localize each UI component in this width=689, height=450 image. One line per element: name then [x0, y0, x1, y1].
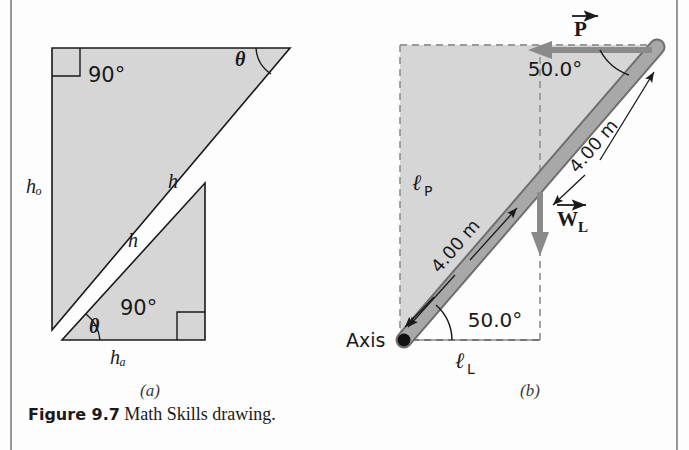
lower-right-angle-label: 90° [120, 296, 157, 320]
figure-graphic: 90° θ hₒ h h 90° θ hₐ (a) [0, 0, 689, 450]
bottom-angle-label: 50.0° [468, 308, 523, 332]
axis-label: Axis [346, 329, 385, 351]
panel-a-label: (a) [140, 381, 160, 400]
upper-right-angle-label: 90° [88, 63, 125, 87]
lever-arm-p-label: ℓ [412, 170, 422, 195]
lower-hypotenuse-label: h [128, 229, 138, 251]
upper-theta-label: θ [235, 48, 246, 70]
weight-arrowhead [531, 232, 549, 256]
lever-arm-p-subscript: P [424, 183, 432, 199]
axis-pivot-dot [398, 334, 411, 347]
panel-b-label: (b) [520, 381, 540, 400]
figure-caption-text: Math Skills drawing. [124, 404, 276, 424]
figure-caption: Figure 9.7 Math Skills drawing. [28, 404, 276, 425]
figure-caption-label: Figure 9.7 [28, 405, 120, 424]
lever-arm-l-subscript: L [467, 361, 475, 377]
adjacent-side-label: hₐ [110, 346, 126, 368]
opposite-side-label: hₒ [26, 175, 42, 197]
force-p-label: P [574, 17, 587, 41]
top-angle-label: 50.0° [528, 57, 583, 81]
weight-label: W [557, 207, 578, 231]
panel-b-group: 50.0° 50.0° 4.00 m 4.00 m P W L ℓ P ℓ L … [346, 16, 657, 400]
figure-page: 90° θ hₒ h h 90° θ hₐ (a) [0, 0, 689, 450]
upper-hypotenuse-label: h [168, 170, 178, 192]
panel-a-group: 90° θ hₒ h h 90° θ hₐ (a) [26, 48, 290, 400]
upper-length-leader-b [553, 175, 585, 205]
weight-label-subscript: L [578, 219, 588, 235]
lever-arm-l-label: ℓ [455, 348, 465, 373]
lower-theta-label: θ [89, 315, 100, 337]
